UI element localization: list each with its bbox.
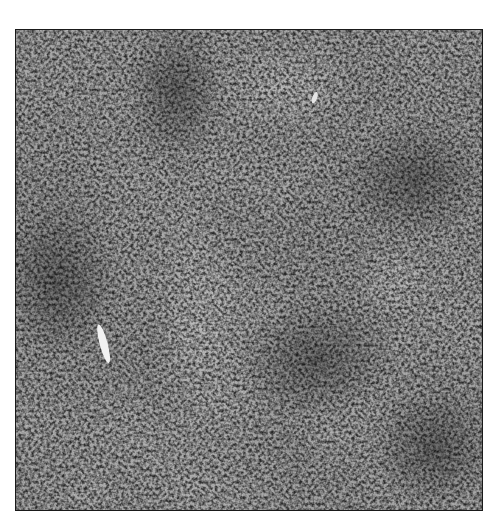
histology-micrograph (15, 29, 483, 511)
tissue-texture (16, 30, 482, 510)
